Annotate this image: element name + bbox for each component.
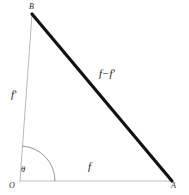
geometry-figure: B O A f' f−f' f θ — [0, 0, 189, 195]
side-vertical-f-prime-line — [20, 14, 32, 181]
vertex-label-a: A — [171, 182, 176, 190]
side-label-f: f — [88, 161, 91, 172]
side-label-f-minus-f-prime: f−f' — [99, 68, 115, 79]
angle-label-theta: θ — [21, 165, 25, 174]
vertex-label-o: O — [9, 182, 15, 190]
triangle-drawing-canvas — [0, 0, 189, 195]
side-label-f-prime: f' — [11, 89, 16, 100]
angle-arc-theta — [23, 146, 56, 181]
vertex-label-b: B — [29, 3, 34, 11]
side-hypotenuse-f-minus-f-prime-line — [32, 14, 172, 181]
